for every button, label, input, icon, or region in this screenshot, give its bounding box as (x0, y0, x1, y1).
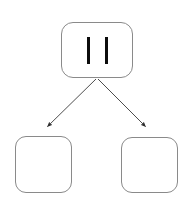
edge-root-to-child-left (48, 79, 97, 127)
node-root[interactable] (61, 22, 133, 78)
node-child-left[interactable] (15, 136, 72, 193)
pause-bar-right (105, 37, 108, 64)
pause-bar-left (87, 37, 90, 64)
node-child-right[interactable] (121, 137, 178, 193)
edge-root-to-child-right (98, 79, 146, 127)
diagram-canvas (0, 0, 192, 217)
pause-icon (87, 37, 108, 64)
